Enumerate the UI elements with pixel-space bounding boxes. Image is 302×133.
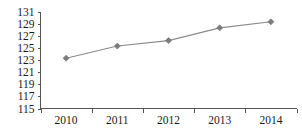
data-point-marker <box>114 43 120 49</box>
y-axis-tick-labels: 115117119121123125127129131 <box>17 6 35 115</box>
y-axis-tick-label: 121 <box>17 66 35 78</box>
y-axis-tick-label: 127 <box>17 30 35 42</box>
chart-plot-area: 115117119121123125127129131 201020112012… <box>0 0 302 133</box>
y-axis-tick-label: 129 <box>17 18 35 30</box>
x-axis-tick-label: 2013 <box>208 114 231 126</box>
line-chart: 115117119121123125127129131 201020112012… <box>0 0 302 133</box>
y-axis-tick-label: 131 <box>17 6 35 18</box>
x-axis-tick-marks <box>42 109 298 113</box>
y-axis-tick-label: 125 <box>17 42 35 54</box>
x-axis-tick-label: 2014 <box>259 114 282 126</box>
data-point-marker <box>63 55 69 61</box>
data-point-marker <box>217 25 223 31</box>
x-axis-tick-label: 2012 <box>157 114 180 126</box>
y-axis-tick-label: 119 <box>18 78 35 90</box>
data-point-marker <box>268 19 274 25</box>
x-axis-tick-labels: 20102011201220132014 <box>55 114 283 126</box>
y-axis-tick-label: 123 <box>17 54 35 66</box>
data-point-marker <box>166 38 172 44</box>
x-axis-tick-label: 2010 <box>55 114 78 126</box>
y-axis-tick-label: 117 <box>18 90 35 102</box>
y-axis-tick-label: 115 <box>18 103 35 115</box>
x-axis-tick-label: 2011 <box>106 114 129 126</box>
